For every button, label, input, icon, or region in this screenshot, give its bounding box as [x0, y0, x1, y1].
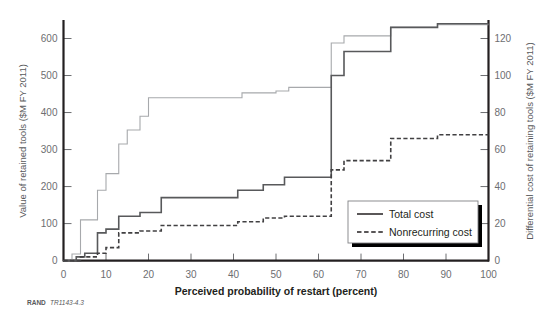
- figure-container: 0100200300400500600 020406080100120 0102…: [0, 0, 552, 325]
- y-axis-left-ticks: 0100200300400500600: [41, 33, 72, 266]
- y-tick-label-left: 100: [41, 218, 58, 229]
- y-tick-label-right: 120: [495, 33, 512, 44]
- y-tick-label-left: 300: [41, 144, 58, 155]
- y-tick-label-left: 500: [41, 70, 58, 81]
- x-tick-label: 100: [480, 269, 497, 280]
- y-tick-label-right: 0: [495, 255, 501, 266]
- source-id: TR1143-4.3: [50, 299, 84, 306]
- x-tick-label: 20: [143, 269, 155, 280]
- y-tick-label-left: 600: [41, 33, 58, 44]
- y-tick-label-right: 40: [495, 181, 507, 192]
- x-tick-label: 30: [185, 269, 197, 280]
- y-tick-label-left: 0: [52, 255, 58, 266]
- x-tick-label: 60: [313, 269, 325, 280]
- y-tick-label-right: 20: [495, 218, 507, 229]
- legend-label-total-cost: Total cost: [389, 208, 433, 220]
- y-tick-label-left: 400: [41, 107, 58, 118]
- x-axis-title: Perceived probability of restart (percen…: [175, 285, 377, 297]
- y-axis-right-ticks: 020406080100120: [481, 33, 512, 266]
- legend-label-nonrecurring-cost: Nonrecurring cost: [389, 226, 472, 238]
- x-tick-label: 10: [100, 269, 112, 280]
- y-tick-label-left: 200: [41, 181, 58, 192]
- y-axis-left-title: Value of retained tools ($M FY 2011): [17, 64, 28, 218]
- x-tick-label: 70: [355, 269, 367, 280]
- y-axis-right-title: Differential cost of retaining tools ($M…: [524, 42, 535, 240]
- x-tick-label: 50: [270, 269, 282, 280]
- x-tick-label: 40: [228, 269, 240, 280]
- x-tick-label: 0: [61, 269, 67, 280]
- y-tick-label-right: 100: [495, 70, 512, 81]
- source-prefix: RAND: [27, 299, 46, 306]
- x-tick-label: 90: [440, 269, 452, 280]
- x-axis-ticks: 0102030405060708090100: [61, 254, 498, 280]
- chart-canvas: 0100200300400500600 020406080100120 0102…: [0, 0, 552, 325]
- x-tick-label: 80: [398, 269, 410, 280]
- chart-legend: Total cost Nonrecurring cost: [348, 201, 482, 247]
- y-tick-label-right: 60: [495, 144, 507, 155]
- y-tick-label-right: 80: [495, 107, 507, 118]
